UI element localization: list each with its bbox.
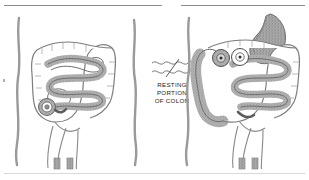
left-arm-outline	[16, 18, 19, 165]
thigh-band-left	[54, 158, 60, 169]
leg-right-outline	[76, 130, 78, 169]
right-arm-outline	[134, 20, 137, 165]
ileum-terminal	[238, 112, 254, 117]
anatomy-figure-left	[6, 8, 152, 172]
thigh-band-left	[239, 158, 245, 169]
anatomy-figure-right	[178, 8, 309, 172]
leg-right-outline	[261, 130, 263, 169]
top-rule-left	[4, 5, 162, 6]
cross-section-marker-gray	[213, 50, 230, 67]
left-arm-outline	[186, 18, 189, 165]
torso-outline	[233, 126, 238, 168]
thigh-band-right	[252, 158, 258, 169]
bottom-rule	[4, 173, 305, 174]
thigh-band-right	[67, 158, 73, 169]
left-margin-tick	[3, 79, 5, 82]
cross-section-marker-white	[232, 49, 249, 66]
torso-outline	[48, 126, 53, 168]
hip-outline	[54, 121, 80, 131]
top-rule-right	[181, 5, 305, 6]
illustration-page: RESTING PORTION OF COLON	[0, 0, 309, 180]
hip-outline	[239, 121, 265, 131]
